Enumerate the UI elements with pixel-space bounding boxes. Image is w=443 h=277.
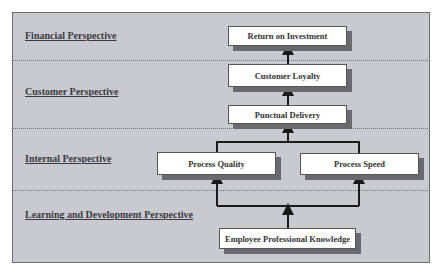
node-customer-loyalty: Customer Loyalty xyxy=(228,64,347,87)
node-punctual-delivery: Punctual Delivery xyxy=(228,105,347,124)
node-process-speed: Process Speed xyxy=(300,153,419,175)
node-process-quality: Process Quality xyxy=(157,152,276,175)
node-employee-professional-knowledge: Employee Professional Knowledge xyxy=(219,228,356,249)
node-return-on-investment: Return on Investment xyxy=(228,26,347,46)
